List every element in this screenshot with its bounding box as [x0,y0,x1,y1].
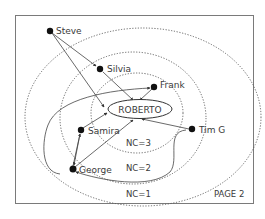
page-label: PAGE 2 [214,189,244,199]
steve-label: Steve [56,26,82,36]
node-roberto: ROBERTO [108,100,172,119]
ring-label-nc1: NC=1 [126,189,151,199]
roberto-label: ROBERTO [118,105,161,115]
george-label: George [79,165,112,175]
diagram-canvas: ROBERTO Steve Silvia Frank Samira Tim G … [0,0,265,219]
timg-label: Tim G [198,125,225,135]
ring-label-nc3: NC=3 [126,138,151,148]
frank-label: Frank [160,80,185,90]
ring-label-nc2: NC=2 [126,163,151,173]
silvia-label: Silvia [107,64,131,74]
samira-label: Samira [88,126,120,136]
